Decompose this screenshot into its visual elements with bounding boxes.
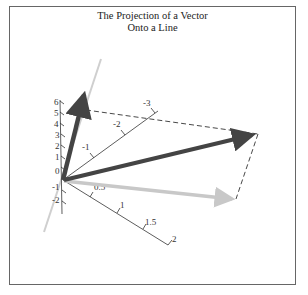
vertical-tick-label: -1 <box>52 182 60 192</box>
diagonal-tick-label: -3 <box>143 98 151 108</box>
vertical-tick-label: 6 <box>54 97 59 107</box>
lower-tick-label: 2 <box>172 234 177 244</box>
vertical-tick-label: -2 <box>52 195 60 205</box>
vector-v-arrow <box>64 135 252 180</box>
lower-tick-label: 1 <box>120 200 125 210</box>
vertical-tick-label: 3 <box>55 130 60 140</box>
vertical-tick-label: 2 <box>55 141 60 151</box>
vertical-tick-label: 5 <box>54 108 59 118</box>
vertical-tick-label: 4 <box>54 119 59 129</box>
vertical-axis <box>60 100 66 214</box>
diagonal-tick-label: -2 <box>113 119 121 129</box>
lower-tick-label: 1.5 <box>145 217 157 227</box>
plot-canvas: -1 -2 -3 0.5 1 1.5 2 6 5 4 3 2 1 0 -1 -2 <box>0 0 308 295</box>
vertical-tick-label: 1 <box>55 152 60 162</box>
vertical-tick-label: 0 <box>55 166 60 176</box>
diagonal-tick-label: -1 <box>82 142 90 152</box>
